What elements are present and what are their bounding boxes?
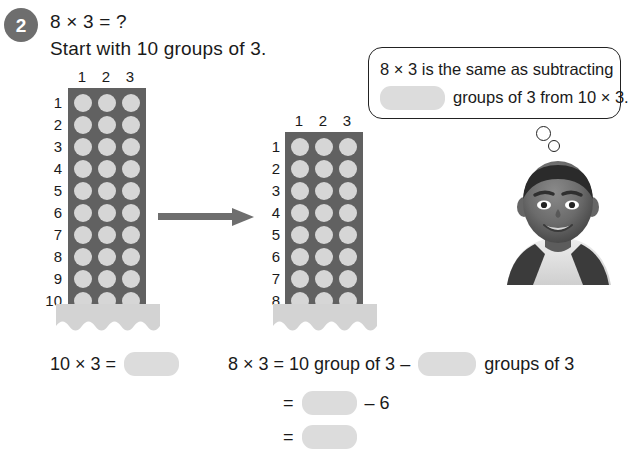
array-dot xyxy=(98,138,116,156)
array-dot xyxy=(315,182,333,200)
array-dot xyxy=(98,160,116,178)
array-dot xyxy=(315,226,333,244)
row-label: 7 xyxy=(258,268,280,290)
column-label: 2 xyxy=(94,68,118,85)
question-number-badge: 2 xyxy=(4,8,38,42)
array-dot xyxy=(122,116,140,134)
equation-2-left: 8 × 3 = 10 group of 3 – xyxy=(228,354,410,375)
equation-row-3: = – 6 xyxy=(283,391,390,415)
array-dot xyxy=(339,226,357,244)
array-dot xyxy=(98,226,116,244)
array-dot xyxy=(315,160,333,178)
array-dot xyxy=(74,138,92,156)
array-dot xyxy=(74,160,92,178)
row-label: 2 xyxy=(40,114,62,136)
equation-2-right: groups of 3 xyxy=(484,354,574,375)
question-line-1: 8 × 3 = ? xyxy=(50,11,127,33)
array-dot xyxy=(291,138,309,156)
question-line-2: Start with 10 groups of 3. xyxy=(50,38,266,60)
left-array-grid xyxy=(68,88,146,316)
row-label: 7 xyxy=(40,224,62,246)
column-label: 3 xyxy=(118,68,142,85)
equation-row-2: 8 × 3 = 10 group of 3 – groups of 3 xyxy=(228,352,574,376)
array-dot xyxy=(74,226,92,244)
equation-row-1: 10 × 3 = xyxy=(50,352,187,376)
row-label: 5 xyxy=(258,224,280,246)
left-array-base xyxy=(56,304,160,338)
row-label: 9 xyxy=(40,268,62,290)
array-dot xyxy=(122,138,140,156)
row-label: 1 xyxy=(40,92,62,114)
column-label: 3 xyxy=(335,112,359,129)
left-array-column-labels: 123 xyxy=(70,68,142,85)
array-dot xyxy=(315,138,333,156)
right-array-grid xyxy=(285,132,363,316)
array-dot xyxy=(74,248,92,266)
array-dot xyxy=(74,116,92,134)
worksheet-page: 2 8 × 3 = ? Start with 10 groups of 3. 1… xyxy=(0,0,636,455)
equation-4-sign: = xyxy=(283,427,294,448)
row-label: 1 xyxy=(258,136,280,158)
array-dot xyxy=(122,270,140,288)
row-label: 4 xyxy=(40,158,62,180)
column-label: 1 xyxy=(70,68,94,85)
speech-bubble-line-2: groups of 3 from 10 × 3. xyxy=(453,88,629,107)
array-dot xyxy=(122,94,140,112)
equation-2-answer-blank[interactable] xyxy=(418,352,476,376)
thought-bubble-dot-small-icon xyxy=(548,140,560,152)
left-array-row-labels: 12345678910 xyxy=(40,92,62,312)
array-dot xyxy=(291,248,309,266)
array-dot xyxy=(315,204,333,222)
array-dot xyxy=(122,248,140,266)
array-dot xyxy=(339,182,357,200)
column-label: 2 xyxy=(311,112,335,129)
speech-bubble-answer-blank[interactable] xyxy=(380,86,445,110)
array-dot xyxy=(291,160,309,178)
array-dot xyxy=(122,226,140,244)
array-dot xyxy=(291,182,309,200)
equation-4-answer-blank[interactable] xyxy=(302,425,357,449)
array-dot xyxy=(315,248,333,266)
array-dot xyxy=(291,270,309,288)
array-dot xyxy=(339,204,357,222)
equation-1-left: 10 × 3 = xyxy=(50,354,116,375)
row-label: 3 xyxy=(40,136,62,158)
equation-3-answer-blank[interactable] xyxy=(302,391,357,415)
array-dot xyxy=(122,160,140,178)
array-dot xyxy=(74,182,92,200)
array-dot xyxy=(339,248,357,266)
row-label: 8 xyxy=(40,246,62,268)
array-dot xyxy=(291,204,309,222)
array-dot xyxy=(98,270,116,288)
array-dot xyxy=(98,248,116,266)
array-dot xyxy=(339,138,357,156)
column-label: 1 xyxy=(287,112,311,129)
thought-bubble-dot-large-icon xyxy=(536,126,551,141)
array-dot xyxy=(74,270,92,288)
array-dot xyxy=(339,270,357,288)
array-dot xyxy=(98,182,116,200)
array-dot xyxy=(74,204,92,222)
array-dot xyxy=(315,270,333,288)
right-array-row-labels: 12345678 xyxy=(258,136,280,312)
row-label: 5 xyxy=(40,180,62,202)
row-label: 6 xyxy=(40,202,62,224)
array-dot xyxy=(74,94,92,112)
array-dot xyxy=(339,160,357,178)
array-dot xyxy=(98,94,116,112)
equation-3-sign: = xyxy=(283,393,294,414)
array-dot xyxy=(98,204,116,222)
right-array-base xyxy=(273,304,377,338)
array-dot xyxy=(291,226,309,244)
equation-3-right: – 6 xyxy=(365,393,390,414)
speech-bubble-line-1: 8 × 3 is the same as subtracting xyxy=(380,60,613,79)
row-label: 4 xyxy=(258,202,280,224)
row-label: 6 xyxy=(258,246,280,268)
array-dot xyxy=(98,116,116,134)
right-array-column-labels: 123 xyxy=(287,112,359,129)
equation-1-answer-blank[interactable] xyxy=(124,352,179,376)
row-label: 3 xyxy=(258,180,280,202)
speech-bubble: 8 × 3 is the same as subtracting groups … xyxy=(368,47,621,119)
array-dot xyxy=(122,182,140,200)
character-photo xyxy=(497,155,619,285)
